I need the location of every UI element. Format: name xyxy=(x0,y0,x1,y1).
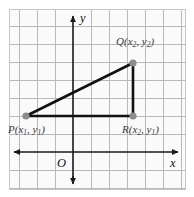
figure-canvas xyxy=(0,0,194,197)
x-axis-label: x xyxy=(170,157,176,170)
point-label-p-comma: , xyxy=(27,123,33,135)
point-label-q-letter: Q xyxy=(116,35,124,47)
point-label-p-x: x1 xyxy=(18,123,27,135)
point-label-p-close: ) xyxy=(41,123,45,135)
point-label-q-comma: , xyxy=(136,35,142,47)
point-label-p-y-sub: 1 xyxy=(37,128,41,137)
point-label-r-letter: R xyxy=(122,123,129,135)
point-label-p-y: y1 xyxy=(33,123,42,135)
vertex-dot-r xyxy=(129,112,136,119)
point-label-r-x-sub: 2 xyxy=(137,128,141,137)
point-label-p-letter: P xyxy=(8,123,15,135)
point-label-r-comma: , xyxy=(141,123,147,135)
point-label-r-y-sub: 1 xyxy=(151,128,155,137)
point-label-r-close: ) xyxy=(155,123,159,135)
point-label-r-y: y1 xyxy=(147,123,156,135)
point-label-q-close: ) xyxy=(150,35,154,47)
point-label-r-x: x2 xyxy=(132,123,141,135)
point-label-p: P(x1, y1) xyxy=(8,124,45,135)
vertex-dot-p xyxy=(22,112,29,119)
y-axis-label: y xyxy=(80,12,86,25)
origin-label: O xyxy=(57,157,66,170)
vertex-dot-q xyxy=(129,59,136,66)
point-label-p-x-sub: 1 xyxy=(23,128,27,137)
point-label-q-x-sub: 2 xyxy=(133,40,137,49)
point-label-q: Q(x2, y2) xyxy=(116,36,154,47)
coordinate-plane-figure: Q(x2, y2) P(x1, y1) R(x2, y1) x y O xyxy=(0,0,194,197)
plot-background xyxy=(10,10,186,190)
point-label-q-x: x2 xyxy=(128,35,137,47)
point-label-q-y-sub: 2 xyxy=(147,40,151,49)
point-label-r: R(x2, y1) xyxy=(122,124,159,135)
